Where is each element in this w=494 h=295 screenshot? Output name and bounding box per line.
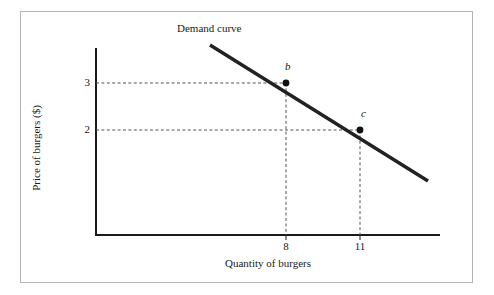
data-point-label-b: b [285,60,291,72]
y-axis-label: Price of burgers ($) [30,78,42,218]
y-tick-label-3: 3 [74,76,90,88]
data-point-label-c: c [361,107,366,119]
x-tick-label-8: 8 [275,240,297,252]
x-tick-label-11: 11 [349,240,371,252]
y-tick-label-2: 2 [74,123,90,135]
demand-curve-plot [0,0,494,295]
data-point-b [283,80,290,87]
demand-curve-annotation: Demand curve [177,22,241,34]
chart-figure: Price of burgers ($) Quantity of burgers… [0,0,494,295]
data-point-c [357,127,364,134]
x-axis-label: Quantity of burgers [168,257,368,269]
demand-curve-line [210,45,428,181]
